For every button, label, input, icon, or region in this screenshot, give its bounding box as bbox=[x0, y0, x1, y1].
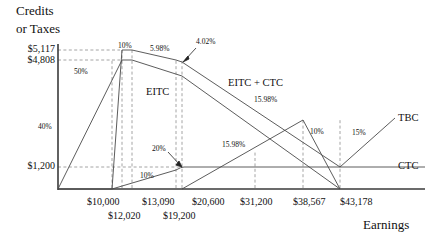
y-axis-title-line2: or Taxes bbox=[16, 22, 60, 35]
series-label-eitc-plus-ctc: EITC + CTC bbox=[228, 78, 283, 89]
y-axis-title-line1: Credits bbox=[16, 4, 54, 17]
series-tbc-upper bbox=[340, 118, 395, 167]
rate-label-50pct: 50% bbox=[74, 68, 88, 76]
series-ctc bbox=[112, 167, 425, 189]
series-label-tbc: TBC bbox=[398, 113, 418, 124]
series-label-ctc: CTC bbox=[398, 161, 418, 172]
x-tick-13090: $13,090 bbox=[142, 197, 175, 207]
rate-label-20pct: 20% bbox=[152, 145, 166, 153]
rate-label-1598pct-lower: 15.98% bbox=[222, 141, 245, 149]
y-tick-5117: $5,117 bbox=[8, 44, 55, 54]
rate-label-402pct: 4.02% bbox=[196, 38, 215, 46]
rate-label-10pct-ctc: 10% bbox=[140, 172, 154, 180]
rate-label-598pct: 5.98% bbox=[150, 45, 169, 53]
rate-label-40pct: 40% bbox=[38, 123, 52, 131]
x-axis-title: Earnings bbox=[363, 218, 409, 231]
rate-label-10pct-tbc: 10% bbox=[310, 128, 324, 136]
x-tick-19200: $19,200 bbox=[163, 211, 196, 221]
chart-canvas bbox=[0, 0, 437, 247]
x-tick-38567: $38,567 bbox=[293, 197, 326, 207]
series-label-eitc: EITC bbox=[146, 87, 169, 98]
y-tick-4808: $4,808 bbox=[8, 55, 55, 65]
x-tick-20600: $20,600 bbox=[192, 197, 225, 207]
rate-label-15pct-tbc: 15% bbox=[352, 129, 366, 137]
data-series bbox=[58, 50, 425, 189]
rate-label-10pct-top: 10% bbox=[118, 42, 132, 50]
axis-lines bbox=[58, 44, 425, 190]
series-eitc bbox=[58, 60, 340, 189]
x-tick-12020: $12,020 bbox=[108, 211, 141, 221]
x-tick-43178: $43,178 bbox=[340, 197, 373, 207]
x-tick-31200: $31,200 bbox=[240, 197, 273, 207]
x-tick-10000: $10,000 bbox=[87, 197, 120, 207]
rate-label-1598pct-upper: 15.98% bbox=[254, 96, 277, 104]
series-eitc-plus-ctc bbox=[58, 50, 340, 189]
chart-figure: Credits or Taxes $5,117 $4,808 $1,200 $1… bbox=[0, 0, 437, 247]
arrow-402-head bbox=[183, 56, 189, 62]
y-tick-1200: $1,200 bbox=[8, 161, 55, 171]
